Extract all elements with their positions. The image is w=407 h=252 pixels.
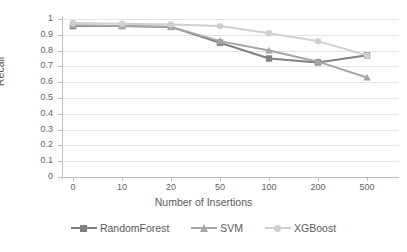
datapoint-randomforest-100 [266,55,272,61]
datapoint-xgboost-200 [315,38,321,44]
legend-item-randomforest[interactable]: RandomForest [71,222,169,234]
chart-legend: RandomForest SVM XGBoost [0,222,407,234]
series-svm [69,22,371,81]
datapoint-xgboost-10 [119,21,125,27]
series-line-svm [73,25,367,77]
datapoint-xgboost-20 [168,21,174,27]
datapoint-xgboost-500 [364,52,370,58]
datapoint-xgboost-0 [70,20,76,26]
series-layer [0,0,407,252]
legend-label-randomforest: RandomForest [100,222,169,234]
legend-item-xgboost[interactable]: XGBoost [265,222,336,234]
legend-marker-svm-icon [191,223,217,233]
legend-marker-randomforest-icon [71,223,97,233]
legend-label-xgboost: XGBoost [294,222,336,234]
series-randomforest [70,23,370,66]
legend-label-svm: SVM [220,222,243,234]
datapoint-xgboost-50 [217,23,223,29]
datapoint-xgboost-100 [266,30,272,36]
legend-item-svm[interactable]: SVM [191,222,243,234]
legend-marker-xgboost-icon [265,223,291,233]
recall-vs-insertions-chart: 1 0.9 0.8 0.7 0.6 0.5 0.4 0.3 0.2 0.1 0 … [0,0,407,252]
